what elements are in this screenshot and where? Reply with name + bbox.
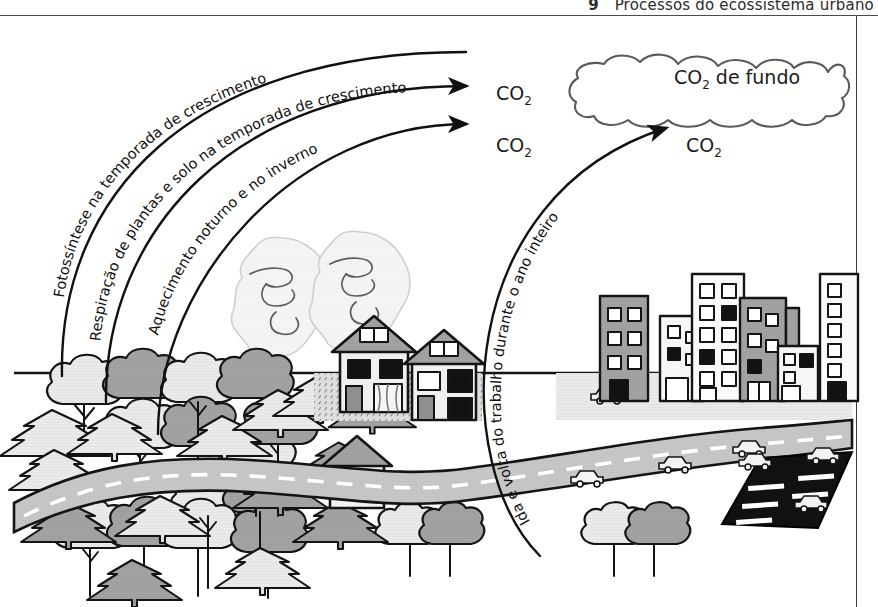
co2-label-photosynthesis: CO2	[496, 82, 532, 108]
parking-lot	[722, 448, 852, 528]
running-header: 9 Processos do ecossistema urbano	[0, 0, 878, 14]
city-buildings	[600, 274, 858, 401]
figure-page: 9 Processos do ecossistema urbano	[0, 0, 878, 607]
ecosystem-diagram: Fotossíntese na temporada de crescimento…	[0, 16, 878, 607]
cloud-label: CO2 de fundo	[652, 66, 822, 92]
co2-label-commuting: CO2	[686, 134, 722, 160]
co2-label-respiration: CO2	[496, 134, 532, 160]
chapter-title: Processos do ecossistema urbano	[615, 0, 874, 14]
chapter-number: 9	[588, 0, 598, 14]
